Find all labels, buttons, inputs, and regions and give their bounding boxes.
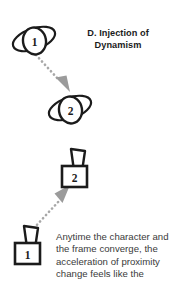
- figure-panel-d: 1 2 2 1 D. Injection of Dynamism: [0, 0, 178, 289]
- bottom-marker-1-group: 1: [15, 226, 40, 264]
- bottom-panel-arrow: [34, 185, 70, 228]
- caption-line-3: acceleration of proximity: [56, 256, 178, 268]
- bottom-marker-1-label: 1: [25, 249, 31, 261]
- caption-line-2: the frame converge, the: [56, 243, 178, 255]
- panel-title-line-2: Dynamism: [95, 40, 142, 50]
- figure-caption: Anytime the character and the frame conv…: [56, 231, 178, 281]
- top-marker-2-label: 2: [68, 105, 74, 117]
- top-panel-arrow: [36, 55, 70, 92]
- caption-line-1: Anytime the character and: [56, 231, 178, 243]
- top-arrow-dotted-line: [36, 55, 59, 80]
- bottom-marker-2-label: 2: [72, 172, 78, 184]
- top-marker-2-group: 2: [46, 91, 94, 125]
- panel-title: D. Injection of Dynamism: [62, 28, 174, 51]
- top-marker-1-label: 1: [32, 36, 38, 48]
- bottom-marker-2-group: 2: [62, 149, 87, 187]
- top-marker-1-group: 1: [10, 22, 58, 56]
- caption-line-4: change feels like the: [56, 268, 178, 280]
- top-arrow-head-icon: [56, 76, 71, 93]
- panel-title-line-1: D. Injection of: [87, 28, 149, 38]
- bottom-arrow-dotted-line: [34, 200, 60, 228]
